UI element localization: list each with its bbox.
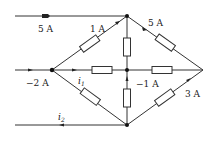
resistor-top-right <box>155 34 175 51</box>
label-top-left-branch: 1 A <box>90 24 106 34</box>
circuit-svg: 5 A 1 A 5 A −2 A i1 −1 A 3 A i2 <box>0 0 216 152</box>
resistor-center-bottom <box>124 89 131 107</box>
resistor-left-center <box>92 67 112 74</box>
resistor-bottom-right <box>155 89 175 106</box>
resistor-center-right <box>152 67 172 74</box>
arrow-top-input-right-icon <box>42 14 50 18</box>
label-i1: i1 <box>78 76 85 87</box>
resistor-left-bottom <box>80 88 100 105</box>
label-i2: i2 <box>58 112 65 123</box>
label-bottom-right-branch: 3 A <box>185 89 201 99</box>
circuit-diagram: 5 A 1 A 5 A −2 A i1 −1 A 3 A i2 <box>0 0 216 152</box>
node-top <box>125 14 129 18</box>
resistor-top-center <box>124 38 131 56</box>
arrow-left-input-right-icon <box>28 69 33 72</box>
arrow-minus1a-up-icon <box>126 76 129 81</box>
resistor-left-top <box>80 35 100 52</box>
label-left-input: −2 A <box>26 78 49 88</box>
arrow-i1-right-icon <box>72 69 77 72</box>
label-center-lower: −1 A <box>136 79 159 89</box>
node-bottom <box>125 123 129 127</box>
label-top-right-branch: 5 A <box>148 18 164 28</box>
label-top-input: 5 A <box>38 24 54 34</box>
arrow-5a-downright-icon <box>142 27 147 31</box>
node-left <box>50 68 54 72</box>
node-center <box>125 68 129 72</box>
arrow-i2-left-icon <box>59 124 64 127</box>
